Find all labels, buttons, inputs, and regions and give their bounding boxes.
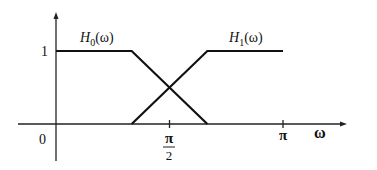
x-tick-label-pi-over-2-numerator: π [165,130,174,146]
origin-label: 0 [39,132,46,147]
x-tick-label-pi-over-2-denominator: 2 [166,148,173,163]
curve-label-h0-arg: (ω) [95,30,114,46]
x-tick-label-pi: π [279,127,288,143]
curve-h0 [56,51,207,124]
x-axis-arrow-icon [340,122,347,127]
curve-label-h1: H1(ω) [228,30,263,48]
x-axis-label: ω [314,124,326,141]
curve-h1 [132,51,283,124]
y-axis-arrow-icon [54,12,59,19]
curve-label-h0: H0(ω) [79,30,114,48]
y-tick-label-1: 1 [41,44,48,59]
curve-label-h1-arg: (ω) [244,30,263,46]
filter-response-diagram: 1 0 ω π 2 π H0(ω) H1(ω) [0,0,377,170]
